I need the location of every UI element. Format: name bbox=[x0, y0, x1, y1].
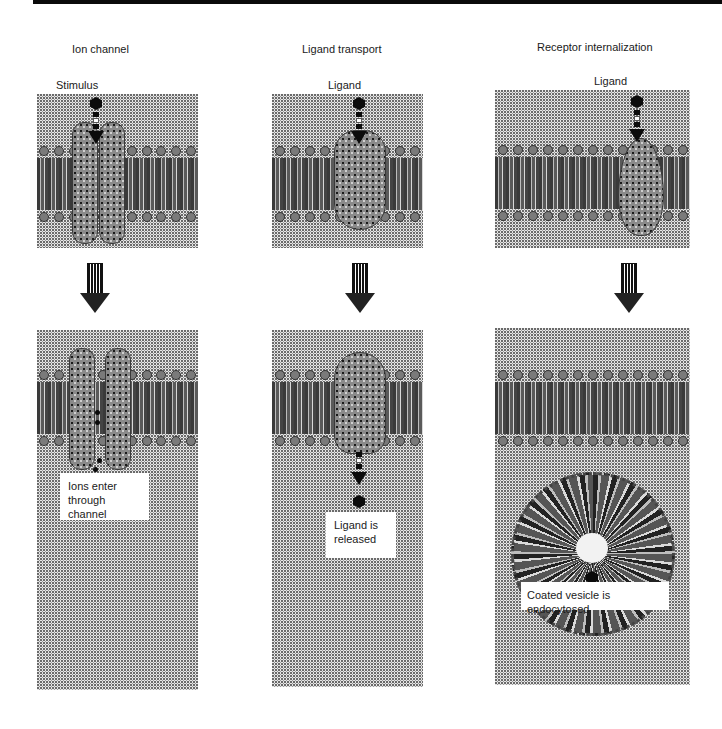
dashed-down-arrow-icon bbox=[351, 131, 367, 144]
striped-down-arrow-icon bbox=[345, 263, 375, 313]
ligand-label: Ligand bbox=[328, 79, 361, 91]
caption-line: Coated vesicle is endocytosed bbox=[527, 588, 663, 616]
ion-dots-icon bbox=[95, 420, 100, 425]
receptor-internalization-before-panel bbox=[495, 90, 690, 248]
ion-dots-icon bbox=[97, 458, 102, 463]
channel-subunit-left-open bbox=[69, 348, 95, 470]
ion-channel-after-panel: Ions enter through channel bbox=[37, 330, 198, 690]
dashed-arrow-segment bbox=[356, 452, 362, 457]
hexagon-ligand-icon bbox=[353, 97, 365, 110]
dashed-arrow-segment bbox=[634, 116, 640, 121]
dashed-down-arrow-icon bbox=[351, 472, 367, 485]
caption-line: through channel bbox=[68, 493, 141, 521]
ion-dots-icon bbox=[93, 467, 98, 472]
dashed-arrow-segment bbox=[356, 464, 362, 469]
dashed-arrow-segment bbox=[356, 118, 362, 123]
dashed-arrow-segment bbox=[356, 112, 362, 117]
ligand-label: Ligand bbox=[594, 75, 627, 87]
hexagon-ligand-icon bbox=[90, 97, 102, 110]
transporter-protein-open bbox=[334, 352, 386, 454]
caption-box: Ligand is released bbox=[326, 512, 396, 558]
column-title-receptor-internalization: Receptor internalization bbox=[537, 41, 653, 53]
hexagon-ligand-icon bbox=[353, 495, 365, 508]
stimulus-label: Stimulus bbox=[56, 79, 98, 91]
ion-dots-icon bbox=[95, 410, 100, 415]
dashed-arrow-segment bbox=[93, 118, 99, 123]
ligand-transport-before-panel bbox=[272, 94, 423, 248]
transporter-protein bbox=[334, 130, 386, 230]
column-title-ion-channel: Ion channel bbox=[72, 43, 129, 55]
ion-channel-before-panel bbox=[37, 94, 198, 248]
receptor-internalization-after-panel: Coated vesicle is endocytosed bbox=[495, 328, 690, 685]
dashed-down-arrow-icon bbox=[88, 131, 104, 144]
column-title-ligand-transport: Ligand transport bbox=[302, 43, 382, 55]
striped-down-arrow-icon bbox=[614, 263, 644, 313]
dashed-arrow-segment bbox=[93, 112, 99, 117]
caption-box: Ions enter through channel bbox=[60, 473, 149, 520]
lipid-bilayer bbox=[495, 370, 690, 450]
striped-down-arrow-icon bbox=[80, 263, 110, 313]
dashed-arrow-segment bbox=[356, 124, 362, 129]
hexagon-ligand-icon bbox=[631, 95, 643, 108]
dashed-arrow-segment bbox=[634, 110, 640, 115]
caption-line: released bbox=[334, 532, 388, 546]
ligand-transport-after-panel: Ligand is released bbox=[272, 330, 423, 687]
dashed-down-arrow-icon bbox=[629, 129, 645, 142]
caption-box: Coated vesicle is endocytosed bbox=[521, 582, 669, 610]
caption-line: Ions enter bbox=[68, 479, 141, 493]
dashed-arrow-segment bbox=[634, 122, 640, 127]
caption-line: Ligand is bbox=[334, 518, 388, 532]
top-border-bar bbox=[33, 0, 722, 4]
channel-subunit-right-open bbox=[105, 348, 131, 470]
dashed-arrow-segment bbox=[93, 124, 99, 129]
dashed-arrow-segment bbox=[356, 458, 362, 463]
vesicle-lumen bbox=[576, 533, 608, 563]
